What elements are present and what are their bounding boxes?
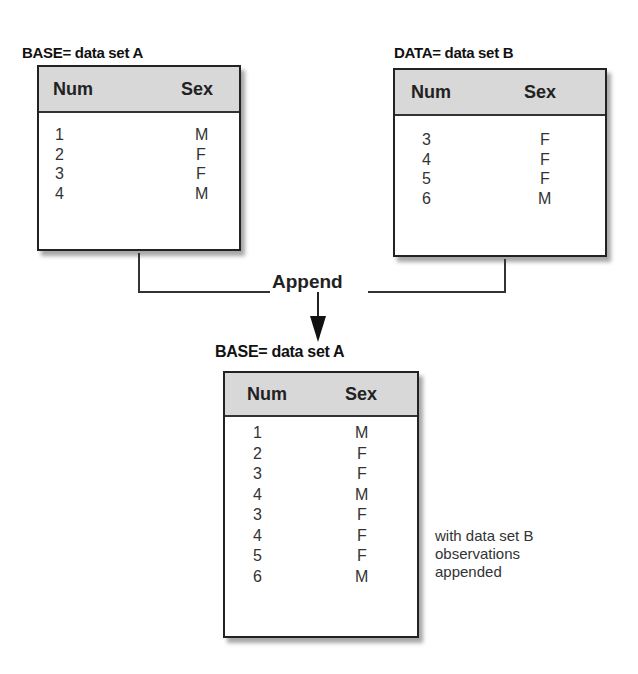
table-header: Num Sex [39,67,239,113]
cell-sex: F [540,150,550,170]
table-header: Num Sex [395,70,605,116]
table-body: 1 M 2 F 3 F 4 M 3 F 4 F 5 F 6 M [225,417,417,587]
table-row: 1 M [39,125,239,145]
column-header-num: Num [53,79,93,100]
note-line: appended [435,563,533,581]
table-row: 6 M [225,567,417,588]
column-header-num: Num [247,384,287,405]
cell-num: 2 [253,444,262,465]
table-body: 1 M 2 F 3 F 4 M [39,113,239,203]
table-row: 3 F [225,505,417,526]
cell-num: 4 [422,150,431,170]
cell-sex: F [540,169,550,189]
cell-sex: M [195,125,208,145]
result-table: Num Sex 1 M 2 F 3 F 4 M 3 F 4 F 5 F [223,371,419,638]
append-operation-label: Append [272,271,343,293]
cell-sex: M [195,184,208,204]
cell-num: 3 [253,464,262,485]
cell-sex: M [538,189,551,209]
cell-num: 3 [253,505,262,526]
connector-right-horizontal [368,291,506,293]
cell-num: 5 [422,169,431,189]
base-dataset-label: BASE= data set A [22,44,143,61]
table-header: Num Sex [225,373,417,417]
cell-num: 3 [55,164,64,184]
cell-sex: F [357,526,367,547]
cell-sex: F [357,505,367,526]
table-row: 1 M [225,423,417,444]
cell-num: 4 [253,526,262,547]
cell-num: 4 [55,184,64,204]
table-row: 4 M [225,485,417,506]
cell-sex: F [196,164,206,184]
table-row: 3 F [39,164,239,184]
connector-left-horizontal [138,291,270,293]
cell-sex: M [355,567,368,588]
column-header-sex: Sex [181,79,213,100]
cell-sex: F [357,464,367,485]
table-row: 4 M [39,184,239,204]
cell-num: 6 [253,567,262,588]
cell-sex: F [357,444,367,465]
table-row: 3 F [225,464,417,485]
table-row: 5 F [395,169,605,189]
cell-num: 3 [422,130,431,150]
table-row: 2 F [225,444,417,465]
cell-num: 1 [55,125,64,145]
cell-sex: F [540,130,550,150]
cell-num: 1 [253,423,262,444]
column-header-num: Num [411,82,451,103]
cell-sex: F [357,546,367,567]
cell-num: 2 [55,145,64,165]
base-table: Num Sex 1 M 2 F 3 F 4 M [37,65,241,251]
cell-sex: M [355,423,368,444]
table-body: 3 F 4 F 5 F 6 M [395,116,605,208]
table-row: 4 F [395,150,605,170]
down-arrow-icon [306,292,330,344]
data-table: Num Sex 3 F 4 F 5 F 6 M [393,68,607,257]
connector-left-vertical [138,253,140,293]
table-row: 2 F [39,145,239,165]
cell-sex: M [355,485,368,506]
table-row: 6 M [395,189,605,209]
column-header-sex: Sex [524,82,556,103]
data-dataset-label: DATA= data set B [394,44,513,61]
table-row: 3 F [395,130,605,150]
table-row: 5 F [225,546,417,567]
table-row: 4 F [225,526,417,547]
note-line: observations [435,545,533,563]
cell-num: 4 [253,485,262,506]
cell-sex: F [196,145,206,165]
result-dataset-label: BASE= data set A [215,343,344,361]
cell-num: 6 [422,189,431,209]
appended-note: with data set B observations appended [435,527,533,581]
column-header-sex: Sex [345,384,377,405]
cell-num: 5 [253,546,262,567]
connector-right-vertical [504,259,506,293]
note-line: with data set B [435,527,533,545]
